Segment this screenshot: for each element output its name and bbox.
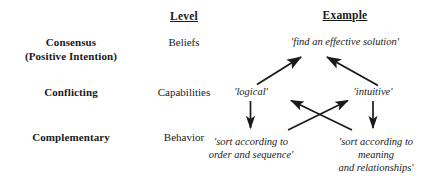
example-find-effective-solution: 'find an effective solution' bbox=[253, 36, 437, 49]
arrow-meaning-relationships-to-logical bbox=[291, 101, 352, 131]
row-label-conflicting: Conflicting bbox=[0, 86, 142, 99]
example-sort-meaning-relationships-line3: and relationships' bbox=[317, 162, 435, 175]
column-header-example: Example bbox=[262, 9, 428, 23]
row-label-consensus-line1: Consensus bbox=[0, 36, 142, 49]
example-sort-meaning-relationships-line2: meaning bbox=[317, 149, 435, 162]
arrow-intuitive-to-solution bbox=[327, 57, 378, 86]
levels-diagram: Level Example Consensus (Positive Intent… bbox=[0, 0, 439, 182]
level-value-beliefs: Beliefs bbox=[125, 36, 243, 49]
row-label-complementary: Complementary bbox=[0, 131, 142, 144]
example-intuitive: 'intuitive' bbox=[334, 86, 412, 99]
example-logical: 'logical' bbox=[212, 86, 290, 99]
example-sort-order-sequence-line2: order and sequence' bbox=[192, 149, 310, 162]
arrow-order-sequence-to-intuitive bbox=[288, 101, 348, 131]
column-header-level: Level bbox=[125, 10, 243, 24]
row-label-consensus-line2: (Positive Intention) bbox=[0, 50, 142, 63]
example-sort-order-sequence-line1: 'sort according to bbox=[192, 136, 310, 149]
arrow-logical-to-solution bbox=[257, 57, 301, 85]
example-sort-meaning-relationships-line1: 'sort according to bbox=[317, 136, 435, 149]
